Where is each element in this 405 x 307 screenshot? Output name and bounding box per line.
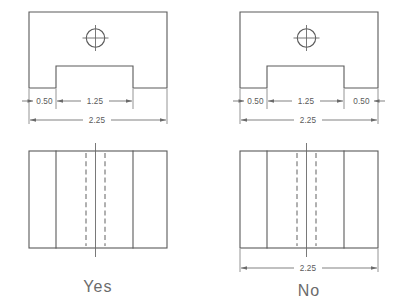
figure-root: 0.50 1.25 2.25	[0, 0, 405, 307]
front-view-right	[240, 143, 378, 257]
dim-right-front-225-text: 2.25	[300, 264, 317, 273]
front-view-left	[29, 143, 167, 257]
dim-right-125: 1.25	[268, 96, 343, 106]
dim-left-050: 0.50	[22, 97, 53, 106]
dim-left-125: 1.25	[57, 96, 132, 106]
technical-drawing-canvas: 0.50 1.25 2.25	[0, 0, 405, 307]
dim-left-125-text: 1.25	[87, 97, 104, 106]
dim-right-225: 2.25	[241, 115, 377, 125]
dim-left-050-arrow	[28, 99, 34, 102]
dim-right-front-225-arrow-right	[371, 266, 377, 269]
dimension-group-left: 0.50 1.25 2.25	[22, 89, 167, 125]
top-view-left-outline	[29, 12, 167, 88]
dim-right-225-arrow-left	[241, 118, 247, 121]
verdict-yes: Yes	[83, 278, 112, 295]
top-view-right-outline	[240, 12, 378, 88]
dim-right-125-text: 1.25	[298, 97, 315, 106]
dim-right-050-a-arrow	[239, 99, 245, 102]
dim-right-front-225-arrow-left	[241, 266, 247, 269]
dim-left-125-arrow-left	[57, 99, 63, 102]
dim-right-225-text: 2.25	[300, 116, 317, 125]
dim-left-225-arrow-left	[30, 118, 36, 121]
dim-right-050-b-arrow	[374, 99, 380, 102]
dim-left-225: 2.25	[30, 115, 166, 125]
dim-right-050-a-text: 0.50	[247, 97, 264, 106]
front-view-left-outline	[29, 151, 167, 248]
dim-right-225-arrow-right	[371, 118, 377, 121]
dim-right-125-arrow-left	[268, 99, 274, 102]
dim-left-225-text: 2.25	[89, 116, 106, 125]
dim-right-050-b: 0.50	[353, 97, 385, 106]
dim-right-front-225: 2.25	[240, 249, 378, 273]
dim-left-125-arrow-right	[126, 99, 132, 102]
dimension-group-right: 0.50 1.25 0.50 2.25	[233, 89, 385, 125]
front-view-right-outline	[240, 151, 378, 248]
dim-right-050-a: 0.50	[233, 97, 264, 106]
dim-right-050-b-text: 0.50	[353, 97, 370, 106]
verdict-no: No	[298, 282, 321, 299]
top-view-left	[29, 12, 167, 88]
top-view-right	[240, 12, 378, 88]
dim-left-050-text: 0.50	[36, 97, 53, 106]
dim-left-225-arrow-right	[160, 118, 166, 121]
dim-right-125-arrow-right	[337, 99, 343, 102]
